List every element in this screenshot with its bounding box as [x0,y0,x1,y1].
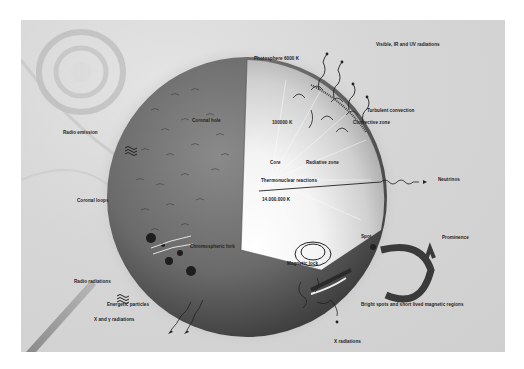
label-temp-core: 14.000.000 K [262,197,290,203]
label-chromospheric-fork: Chromospheric fork [190,244,235,250]
label-x-radiations: X radiations [334,339,361,345]
label-prominence: Prominence [442,235,469,241]
label-thermonuclear: Thermonuclear reactions [261,178,317,184]
label-temp-100000: 100000 K [272,120,292,126]
label-neutrinos: Neutrinos [438,177,460,183]
label-x-gamma: X and γ radiations [94,317,134,323]
label-bright-spots: Bright spots and short lived magnetic re… [361,302,464,308]
label-turbulent-convection: Turbulent convection [367,108,414,114]
label-radio-emission: Radio emission [63,130,98,136]
sun-illustration: Visible, IR and UV radiations Photospher… [21,20,505,352]
label-core: Core [270,160,281,166]
label-spot: Spot [361,234,371,240]
label-magnetic-lock: Magnetic lock [287,261,318,267]
label-convective-zone: Convective zone [353,120,390,126]
radio-emission-rings [39,32,123,112]
label-visible-ir-uv: Visible, IR and UV radiations [376,42,440,48]
label-photosphere: Photosphere 6000 K [254,56,299,62]
label-coronal-hole: Coronal hole [192,118,221,124]
label-radiative-zone: Radiative zone [306,160,339,166]
label-energetic-particles: Energetic particles [107,302,149,308]
label-coronal-loops: Coronal loops [77,198,109,204]
label-radio-radiations: Radio radiations [74,279,111,285]
